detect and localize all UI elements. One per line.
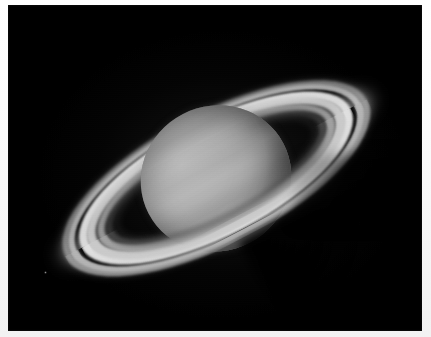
- sky-canvas: [8, 5, 422, 331]
- saturn-photograph: Grayscale telescopic photograph of Satur…: [0, 0, 431, 337]
- moon-point-source: [44, 271, 47, 274]
